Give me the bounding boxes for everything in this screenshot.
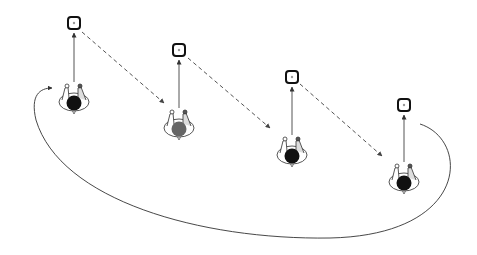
person-top-view <box>59 84 89 114</box>
transition-arrow-3-4 <box>300 84 382 156</box>
diagram-canvas <box>0 0 477 255</box>
station-1 <box>59 17 89 114</box>
target-square-icon <box>398 99 410 111</box>
head <box>397 176 412 191</box>
person-top-view <box>389 164 419 194</box>
head <box>172 122 187 137</box>
transition-arrow-2-3 <box>188 58 270 128</box>
person-top-view <box>277 137 307 167</box>
target-square-icon <box>286 71 298 83</box>
head <box>67 96 82 111</box>
station-3 <box>277 71 307 167</box>
target-square-icon <box>68 17 80 29</box>
person-top-view <box>164 110 194 140</box>
target-square-icon <box>173 44 185 56</box>
head <box>285 149 300 164</box>
station-4 <box>389 99 419 194</box>
diagram-svg <box>0 0 477 255</box>
station-2 <box>164 44 194 140</box>
transition-arrow-1-2 <box>82 32 164 103</box>
return-path-arrow <box>34 88 450 238</box>
